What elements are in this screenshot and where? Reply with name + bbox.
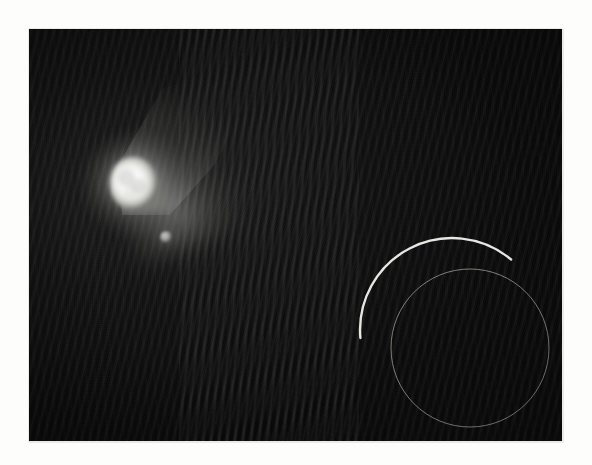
annotation-overlay — [29, 29, 562, 441]
astronomical-photograph — [29, 29, 562, 441]
page-root — [0, 0, 592, 465]
bright-arc-annotation — [360, 238, 511, 338]
thin-circle-annotation — [391, 269, 549, 427]
